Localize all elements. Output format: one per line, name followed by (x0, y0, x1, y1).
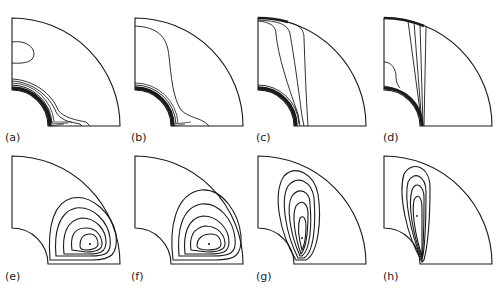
panel-label-f: (f) (131, 270, 143, 283)
panel-label-g: (g) (256, 270, 272, 283)
panel-label-a: (a) (5, 131, 20, 144)
panel-label-e: (e) (5, 270, 20, 283)
panel-label-d: (d) (383, 131, 399, 144)
panel-d (384, 18, 492, 126)
panel-e (12, 156, 120, 264)
panel-f (135, 156, 243, 264)
panel-g (258, 156, 366, 264)
panel-label-h: (h) (383, 270, 399, 283)
contour-figure (0, 0, 504, 290)
panel-h (384, 156, 492, 264)
panel-c (258, 18, 366, 126)
panel-b (135, 18, 243, 126)
panel-a (12, 18, 120, 126)
panel-label-b: (b) (131, 131, 147, 144)
panel-label-c: (c) (256, 131, 271, 144)
